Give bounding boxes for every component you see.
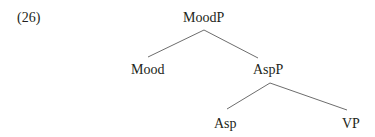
branch-moodp-aspp [204,30,258,58]
branch-moodp-mood [148,30,204,57]
node-moodp: MoodP [183,11,224,25]
node-aspp: AspP [253,63,283,77]
node-vp: VP [342,117,360,131]
node-mood: Mood [131,63,164,77]
node-asp: Asp [214,117,237,131]
example-number: (26) [17,11,40,25]
branch-aspp-vp [270,83,347,110]
branch-aspp-asp [227,83,270,109]
